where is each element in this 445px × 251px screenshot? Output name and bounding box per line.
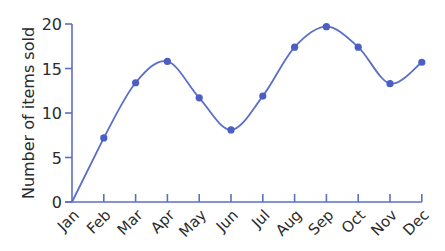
- x-tick-label: Mar: [114, 206, 147, 239]
- x-tick-label: Jul: [247, 206, 273, 232]
- x-tick-label: Sep: [305, 206, 338, 239]
- y-tick-label: 0: [52, 193, 62, 212]
- x-axis: JanFebMarAprMayJunJulAugSepOctNovDec: [53, 194, 433, 241]
- series-layer: [72, 23, 425, 202]
- y-axis-label: Number of items sold: [19, 27, 38, 199]
- data-point: [418, 59, 425, 66]
- x-tick-label: Feb: [83, 206, 115, 238]
- y-tick-label: 10: [42, 104, 62, 123]
- data-point: [291, 44, 298, 51]
- series-line: [72, 27, 422, 202]
- x-tick-label: Apr: [147, 206, 179, 238]
- x-tick-label: Jun: [212, 206, 242, 236]
- data-point: [355, 44, 362, 51]
- data-point: [323, 23, 330, 30]
- y-tick-label: 20: [42, 15, 62, 34]
- x-tick-label: Aug: [272, 206, 305, 239]
- y-tick-label: 5: [52, 149, 62, 168]
- data-point: [227, 126, 234, 133]
- data-point: [100, 134, 107, 141]
- x-tick-label: Oct: [338, 206, 369, 237]
- data-point: [164, 58, 171, 65]
- x-tick-label: Nov: [367, 206, 401, 240]
- y-axis: 05101520: [42, 15, 72, 212]
- data-point: [132, 79, 139, 86]
- data-point: [196, 94, 203, 101]
- data-point: [259, 92, 266, 99]
- line-chart: 05101520 JanFebMarAprMayJunJulAugSepOctN…: [0, 0, 445, 251]
- x-tick-label: May: [175, 206, 210, 241]
- x-tick-label: Dec: [399, 206, 432, 239]
- chart-canvas: 05101520 JanFebMarAprMayJunJulAugSepOctN…: [0, 0, 445, 251]
- data-point: [386, 80, 393, 87]
- y-tick-label: 15: [42, 60, 62, 79]
